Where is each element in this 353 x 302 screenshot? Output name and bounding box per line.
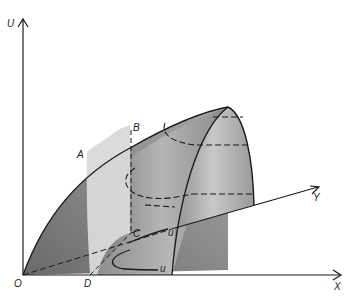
label-y-axis: Y	[313, 192, 321, 203]
label-curve-lower: u	[160, 263, 166, 274]
label-point-d: D	[84, 278, 91, 289]
label-point-b: B	[133, 122, 140, 133]
label-curve-upper: u	[168, 227, 174, 238]
label-point-c: C	[133, 228, 141, 239]
utility-surface-diagram: U X Y O A B C D u u	[0, 0, 353, 302]
label-point-a: A	[76, 149, 84, 160]
label-u-axis: U	[7, 18, 15, 29]
label-origin: O	[14, 278, 22, 289]
label-x-axis: X	[333, 281, 341, 292]
